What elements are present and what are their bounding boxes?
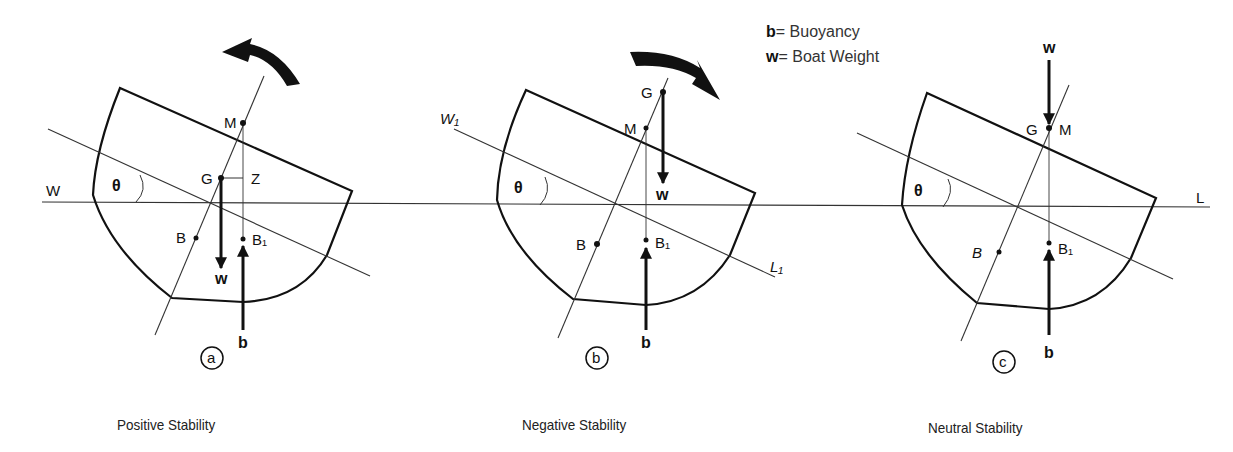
legend-symbol: b (766, 23, 776, 40)
angle-theta: θ (514, 179, 523, 196)
centerline (558, 78, 668, 338)
waterline-label-L: L (1196, 189, 1204, 206)
panel-label: b (592, 349, 600, 366)
legend-meaning: Buoyancy (790, 23, 860, 40)
legend-item-weight: w= Boat Weight (766, 44, 879, 69)
caption-positive-stability: Positive Stability (117, 416, 215, 433)
point-B: B (972, 244, 982, 261)
point-B1: B₁ (655, 234, 670, 251)
point-G: G (1026, 121, 1038, 138)
legend-sep: = (778, 48, 787, 65)
point-M: M (1059, 121, 1072, 138)
point-M: M (224, 114, 237, 131)
buoyancy-label: b (641, 334, 651, 351)
point-B: B (176, 229, 186, 246)
point-B1: B₁ (252, 231, 267, 248)
point-Z: Z (251, 170, 260, 187)
angle-arc (136, 175, 143, 202)
legend-symbol: w (766, 48, 778, 65)
panel-label: a (207, 349, 216, 366)
angle-arc (540, 177, 548, 205)
weight-label: w (655, 186, 669, 203)
weight-label: w (1042, 39, 1056, 56)
inclined-waterline-label-L1: L₁ (770, 258, 783, 275)
point-B: B (576, 236, 586, 253)
angle-arc (943, 179, 951, 207)
legend-sep: = (776, 23, 785, 40)
point-B1: B₁ (1058, 240, 1073, 257)
legend-item-buoyancy: b= Buoyancy (766, 19, 879, 44)
caption-neutral-stability: Neutral Stability (928, 419, 1023, 436)
angle-theta: θ (914, 182, 923, 199)
stability-diagram: W L θ M G Z B B₁ w b a W₁ L₁ θ (0, 0, 1233, 452)
point-G: G (201, 170, 213, 187)
inclined-waterline-label-W1: W₁ (440, 110, 459, 127)
caption-negative-stability: Negative Stability (522, 416, 626, 433)
waterline-label-W: W (46, 182, 61, 199)
buoyancy-label: b (1044, 344, 1054, 361)
panel-b-negative-stability: W₁ L₁ θ G M B B₁ w b b (440, 52, 783, 369)
rotation-arrow-ccw-icon (222, 38, 300, 86)
centerline (155, 76, 264, 335)
buoyancy-label: b (238, 334, 248, 351)
legend: b= Buoyancy w= Boat Weight (766, 19, 879, 69)
point-G: G (641, 84, 653, 101)
weight-label: w (214, 270, 228, 287)
point-M: M (624, 120, 637, 137)
panel-label: c (999, 353, 1007, 370)
centerline (961, 85, 1069, 341)
angle-theta: θ (112, 177, 121, 194)
legend-meaning: Boat Weight (792, 48, 879, 65)
inclined-waterline (454, 129, 775, 277)
